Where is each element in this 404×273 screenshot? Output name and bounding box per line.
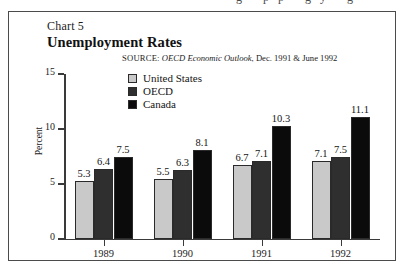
bar-value-label: 11.1 — [351, 104, 369, 115]
y-axis-tick-label: 15 — [45, 66, 55, 78]
bar-group: 6.77.110.3 — [222, 74, 301, 239]
bar-value-label: 6.4 — [97, 156, 110, 167]
bar-canada-1989 — [114, 157, 133, 240]
bars-layer: 5.36.47.55.56.38.16.77.110.37.17.511.1 — [64, 74, 380, 239]
bar-canada-1990 — [193, 150, 212, 239]
bar-canada-1992 — [351, 117, 370, 239]
bar-united-states-1991 — [233, 165, 252, 239]
x-axis-tick-label: 1992 — [330, 248, 351, 260]
bar-value-label: 8.1 — [195, 137, 208, 148]
bar-group: 7.17.511.1 — [301, 74, 380, 239]
x-axis-tick-label: 1989 — [93, 248, 114, 260]
chart-plot-area: Percent 051015 1989199019911992 5.36.47.… — [9, 12, 397, 262]
chart-figure-frame: Chart 5 Unemployment Rates SOURCE: OECD … — [8, 11, 396, 261]
x-axis-tick-label: 1991 — [251, 248, 272, 260]
bar-value-label: 6.7 — [235, 152, 248, 163]
bar-group: 5.56.38.1 — [143, 74, 222, 239]
bar-value-label: 7.1 — [255, 148, 268, 159]
bar-oecd-1991 — [252, 161, 271, 239]
bar-value-label: 6.3 — [176, 157, 189, 168]
x-axis-tick — [183, 239, 184, 246]
bar-united-states-1990 — [154, 179, 173, 240]
bar-value-label: 10.3 — [272, 113, 290, 124]
bleed-text: g pp gy g — [236, 0, 362, 5]
bar-oecd-1992 — [331, 157, 350, 240]
x-axis-tick — [341, 239, 342, 246]
bar-united-states-1989 — [75, 181, 94, 239]
bar-value-label: 7.5 — [116, 144, 129, 155]
bar-value-label: 5.5 — [156, 166, 169, 177]
bar-oecd-1989 — [94, 169, 113, 239]
bar-value-label: 7.5 — [334, 144, 347, 155]
x-axis-tick — [104, 239, 105, 246]
bar-value-label: 7.1 — [314, 148, 327, 159]
page-text-bleed: g pp gy g — [0, 0, 404, 9]
bar-oecd-1990 — [173, 170, 192, 239]
bar-united-states-1992 — [312, 161, 331, 239]
x-axis-tick — [262, 239, 263, 246]
y-axis-tick-label: 5 — [50, 176, 55, 188]
y-axis-tick-label: 0 — [50, 231, 55, 243]
y-axis-title: Percent — [34, 127, 44, 156]
bar-value-label: 5.3 — [77, 168, 90, 179]
x-axis-tick-label: 1990 — [172, 248, 193, 260]
bar-group: 5.36.47.5 — [64, 74, 143, 239]
y-axis-tick-label: 10 — [45, 121, 55, 133]
bar-canada-1991 — [272, 126, 291, 239]
